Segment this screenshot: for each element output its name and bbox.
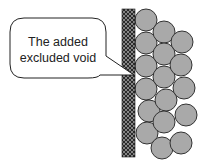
wall-surface xyxy=(122,9,135,157)
particle-cluster xyxy=(135,9,197,159)
particle-14 xyxy=(170,54,192,76)
particle-13 xyxy=(171,31,193,53)
particle-16 xyxy=(175,104,197,126)
callout-bubble: The added excluded void xyxy=(10,18,134,78)
particle-15 xyxy=(173,77,195,99)
particle-12 xyxy=(151,137,173,159)
particle-17 xyxy=(170,132,192,154)
callout-text-line-2: excluded void xyxy=(20,51,96,65)
excluded-void-diagram: The added excluded void xyxy=(0,0,208,167)
callout-text-line-1: The added xyxy=(28,35,88,49)
particle-11 xyxy=(153,111,175,133)
